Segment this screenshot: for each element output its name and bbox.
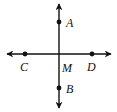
label-c: C [20,60,29,74]
label-b: B [66,82,74,96]
point-b [57,86,62,91]
point-a [57,20,62,25]
label-d: D [86,60,96,74]
label-a: A [65,16,74,30]
perpendicular-lines-diagram: A C M D B [0,0,117,112]
point-c [23,52,28,57]
point-d [90,52,95,57]
label-m: M [61,61,73,75]
